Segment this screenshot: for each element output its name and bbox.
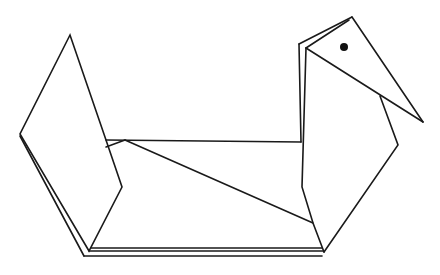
body-diagonal-fold	[125, 140, 313, 223]
chest-line	[324, 96, 398, 252]
left-wing	[20, 35, 122, 251]
head-back-line	[352, 17, 423, 122]
origami-duck-drawing	[0, 0, 440, 275]
body-top-line	[106, 140, 301, 142]
left-wing-outer-edge	[20, 136, 84, 256]
neck-inner-line	[302, 48, 324, 252]
eye-icon	[340, 43, 348, 51]
body-fold-small	[106, 140, 125, 147]
neck-outer-line	[299, 44, 301, 142]
head-lower-line	[306, 48, 423, 122]
neck-outer-link	[299, 17, 352, 44]
